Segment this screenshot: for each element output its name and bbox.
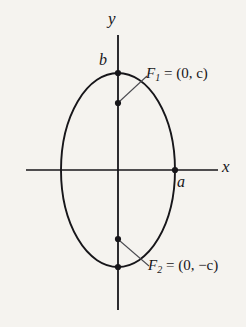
focus-label-f2: F2 = (0, −c) [148,258,218,275]
focus-label-f1: F1 = (0, c) [146,66,208,83]
y-axis-label: y [108,10,116,27]
focus-symbol-f1: F [146,65,155,81]
x-axis-label: x [222,158,230,175]
figure-canvas [0,0,246,327]
ellipse-figure: y x b a F1 = (0, c) F2 = (0, −c) [0,0,246,327]
leader-line-f1 [120,76,147,101]
focus-coordinates-f1: (0, c) [176,65,208,81]
focus-symbol-f2: F [148,257,157,273]
point-focus-lower [115,236,121,242]
point-focus-upper [115,100,121,106]
major-vertex-label-a: a [177,174,185,190]
focus-equals-f2: = [162,257,178,273]
point-minor-vertex-bottom [115,264,121,270]
focus-coordinates-f2: (0, −c) [178,257,218,273]
focus-equals-f1: = [160,65,176,81]
point-minor-vertex-top [115,70,121,76]
minor-vertex-label-b: b [99,52,107,68]
